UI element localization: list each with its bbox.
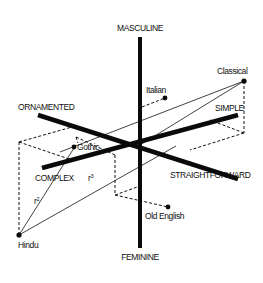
axis-label-masculine: MASCULINE (117, 23, 164, 33)
label-old-english: Old English (145, 211, 185, 221)
axis-label-feminine: FEMININE (121, 252, 159, 262)
gothic-point (72, 145, 77, 150)
hindu-top-line-1 (19, 127, 72, 142)
old-english-axis-line (115, 186, 140, 195)
label-gothic: Gothic (77, 142, 100, 152)
hindu-top-line-2 (19, 142, 72, 160)
classical-floor-line (190, 133, 244, 150)
hindu-point (16, 232, 21, 237)
classical-point (241, 78, 246, 83)
axis-label-straightforward: STRAIGHTFORWARD (170, 170, 251, 180)
label-r3: r3 (88, 173, 93, 183)
semantic-differential-3d-diagram: MASCULINE FEMININE ORNAMENTED STRAIGHTFO… (0, 0, 263, 283)
label-italian: Italian (146, 85, 167, 95)
axes (38, 37, 238, 248)
r3-line (19, 146, 176, 235)
axis-label-complex: COMPLEX (35, 173, 74, 183)
axis-label-simple: SIMPLE (215, 103, 245, 113)
label-hindu: Hindu (18, 240, 39, 250)
italian-point (163, 96, 168, 101)
old-english-point (166, 205, 171, 210)
italian-projection-line (142, 98, 165, 107)
axis-label-ornamented: ORNAMENTED (18, 102, 75, 112)
point-labels: Classical Italian Gothic Old English Hin… (18, 66, 248, 250)
label-classical: Classical (217, 66, 248, 76)
